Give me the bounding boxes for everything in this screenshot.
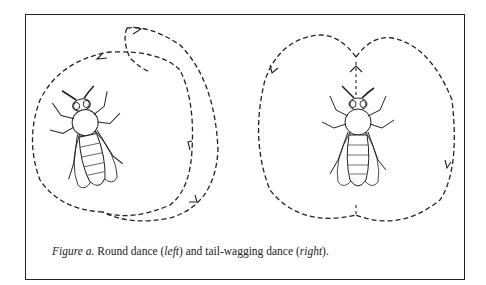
caption-text: Round dance ( (94, 245, 164, 257)
caption-text: ) and tail-wagging dance ( (179, 245, 300, 257)
caption-left: left (164, 245, 179, 257)
round-dance-path (33, 52, 193, 216)
waggle-dance-right-loop (356, 38, 454, 221)
round-dance-panel (33, 27, 219, 221)
caption-label: Figure a. (52, 245, 94, 257)
figure-caption: Figure a. Round dance (left) and tail-wa… (52, 245, 329, 257)
bee-right-icon (322, 86, 394, 186)
bee-left-icon (42, 80, 133, 193)
caption-right: right (300, 245, 322, 257)
waggle-dance-left-loop (259, 35, 356, 218)
figure-diagram (0, 0, 486, 285)
tail-wagging-dance-panel (259, 35, 455, 221)
caption-text: ). (322, 245, 329, 257)
arrow-icon (97, 27, 141, 59)
